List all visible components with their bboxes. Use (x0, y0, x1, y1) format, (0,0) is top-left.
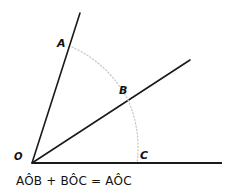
geometry-canvas (0, 0, 230, 194)
ray-OA (32, 13, 80, 163)
angle-diagram-figure: A B C O AÔB + BÔC = AÔC (0, 0, 230, 194)
angle-addition-equation: AÔB + BÔC = AÔC (16, 174, 132, 188)
point-label-a: A (57, 38, 66, 49)
arc-BOC-dotted (128, 100, 138, 163)
point-label-b: B (119, 85, 127, 96)
point-label-c: C (140, 150, 148, 161)
point-label-o-vertex: O (14, 152, 23, 162)
